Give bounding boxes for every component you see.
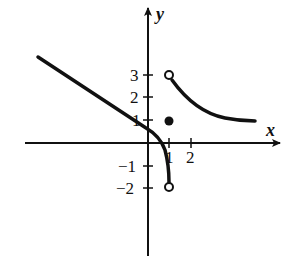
y-tick-label-neg1: −1 [118, 157, 136, 176]
open-circle-top [165, 71, 173, 79]
closed-dot [165, 117, 174, 126]
x-axis-label: x [265, 120, 275, 140]
y-tick-label-neg2: −2 [116, 179, 134, 198]
open-circle-bottom [165, 183, 173, 191]
right-piece-curve [172, 80, 255, 121]
y-tick-label-3: 3 [130, 66, 139, 85]
x-tick-label-2: 2 [186, 148, 195, 167]
y-axis-label: y [154, 4, 165, 24]
function-graph: 3 2 1 −1 −2 1 2 y x [0, 0, 284, 258]
y-tick-label-2: 2 [130, 88, 139, 107]
